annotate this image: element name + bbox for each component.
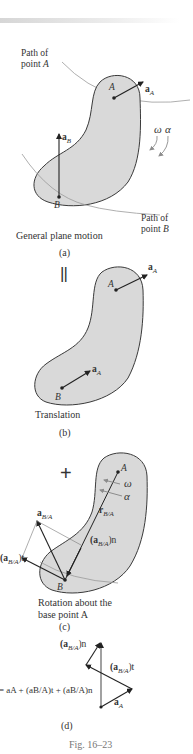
panel-b-caption: Translation bbox=[35, 409, 80, 421]
a-ba-t-label-c: (aB/A)t bbox=[0, 553, 24, 568]
point-a-label-c: A bbox=[121, 463, 127, 474]
accel-b-label: aB bbox=[62, 132, 71, 147]
point-a-label-b: A bbox=[108, 279, 114, 290]
r-ba-label: rB/A bbox=[99, 505, 114, 520]
alpha-label-c: α bbox=[124, 491, 130, 502]
point-b-label-c: B bbox=[57, 582, 63, 593]
a-a-subscript-d: A bbox=[119, 702, 123, 710]
panel-a-caption: General plane motion bbox=[16, 230, 103, 242]
panel-a-subcaption: (a) bbox=[59, 247, 70, 258]
panel-b-subcaption: (b) bbox=[59, 427, 71, 438]
point-a-dot-c bbox=[116, 470, 120, 474]
a-ba-n-symbol-c: (a bbox=[90, 535, 98, 545]
a-ba-n-end-d: )n bbox=[78, 639, 86, 649]
alpha-label: α bbox=[165, 124, 171, 135]
accel-a-subscript-b: A bbox=[153, 267, 157, 275]
accel-at-b-label: aA bbox=[92, 364, 101, 379]
poly-origin-dot bbox=[99, 705, 102, 708]
point-b-dot-c bbox=[63, 578, 67, 582]
a-ba-t-label-d: (aB/A)t bbox=[110, 662, 134, 677]
accel-a-label: aA bbox=[145, 84, 154, 99]
point-b-label-b: B bbox=[55, 392, 61, 403]
panel-c-caption: Rotation about the base point A bbox=[38, 597, 112, 621]
omega-arrow bbox=[150, 136, 157, 150]
panel-a-general-plane-motion bbox=[22, 62, 190, 215]
a-ba-t-subscript-d: B/A bbox=[118, 667, 129, 675]
panel-c-caption-line2: base point A bbox=[38, 609, 88, 620]
panel-c-subcaption: (c) bbox=[59, 621, 70, 632]
point-a-dot bbox=[112, 96, 116, 100]
plus-operator: + bbox=[60, 462, 72, 485]
point-b-label: B bbox=[54, 200, 60, 211]
a-ba-t-subscript-c: B/A bbox=[8, 558, 19, 566]
panel-b-translation bbox=[35, 267, 147, 405]
panel-c-rotation bbox=[22, 453, 147, 593]
accel-a-label-b: aA bbox=[148, 262, 157, 277]
point-a-dot-b bbox=[114, 288, 118, 292]
path-b-label-line2: point B bbox=[141, 224, 169, 234]
path-b-label-line1: Path of bbox=[141, 213, 168, 223]
a-ba-t-end-c: )t bbox=[18, 553, 24, 563]
rigid-body-b bbox=[35, 267, 143, 405]
omega-label-c: ω bbox=[124, 478, 132, 489]
point-b-dot-b bbox=[60, 386, 64, 390]
accel-b-subscript: B bbox=[67, 137, 71, 145]
path-a-label: Path of point A bbox=[21, 48, 49, 70]
a-a-label-d: aA bbox=[114, 697, 123, 712]
equals-operator: || bbox=[60, 264, 67, 284]
point-b-dot bbox=[57, 195, 61, 199]
a-ba-n-symbol-d: (a bbox=[60, 639, 68, 649]
a-ba-t-symbol-c: (a bbox=[0, 553, 8, 563]
alpha-arrow bbox=[159, 136, 168, 156]
panel-d-subcaption: (d) bbox=[61, 720, 73, 731]
path-a-label-line2: point A bbox=[21, 59, 49, 69]
path-a-point-letter: A bbox=[43, 59, 49, 69]
a-ba-n-subscript-d: B/A bbox=[68, 644, 79, 652]
a-ba-subscript: B/A bbox=[42, 513, 53, 521]
a-ba-t-end-d: )t bbox=[128, 662, 134, 672]
a-ba-n-subscript-c: B/A bbox=[98, 540, 109, 548]
panel-c-caption-line1: Rotation about the bbox=[38, 597, 112, 608]
poly-a-ba-n-vector bbox=[86, 643, 100, 665]
figure-number: Fig. 16–23 bbox=[69, 739, 112, 750]
omega-label: ω bbox=[154, 124, 162, 135]
path-b-point-letter: B bbox=[163, 224, 169, 234]
acceleration-equation: = aA + (aB/A)t + (aB/A)n bbox=[0, 685, 92, 695]
parallelogram-edge-1 bbox=[22, 521, 37, 558]
a-ba-n-end-c: )n bbox=[108, 535, 116, 545]
point-a-label: A bbox=[109, 82, 115, 93]
r-ba-subscript: B/A bbox=[103, 510, 114, 518]
accel-at-b-subscript: A bbox=[97, 369, 101, 377]
parallelogram-edge-2 bbox=[37, 521, 81, 545]
a-ba-label: aB/A bbox=[37, 508, 52, 523]
a-ba-t-symbol-d: (a bbox=[110, 662, 118, 672]
a-ba-n-label-d: (aB/A)n bbox=[60, 639, 86, 654]
path-a-label-line1: Path of bbox=[21, 48, 48, 58]
a-ba-n-label-c: (aB/A)n bbox=[90, 535, 116, 550]
accel-a-subscript: A bbox=[150, 89, 154, 97]
path-b-label: Path of point B bbox=[141, 213, 169, 235]
